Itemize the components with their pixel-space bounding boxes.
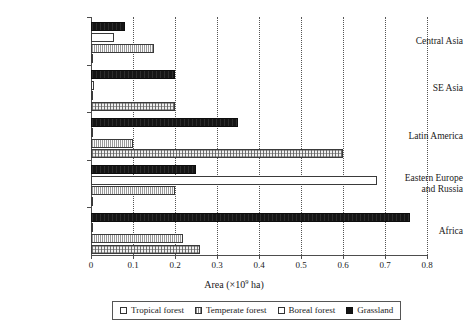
bar-temperate bbox=[91, 139, 133, 148]
y-category-label: Latin America bbox=[382, 131, 468, 142]
bar-grassland bbox=[91, 165, 196, 174]
bar-grassland bbox=[91, 213, 410, 222]
x-tick-label: 0.5 bbox=[286, 260, 316, 271]
y-tick bbox=[87, 207, 92, 208]
bar-temperate bbox=[91, 91, 93, 100]
x-axis-title-suffix: ha) bbox=[248, 279, 263, 290]
legend-label: Temperate forest bbox=[206, 305, 267, 316]
y-category-label: Eastern Europe and Russia bbox=[382, 173, 468, 195]
x-axis-title-prefix: Area (×10 bbox=[204, 279, 245, 290]
legend-swatch-temperate-forest-icon bbox=[195, 307, 202, 314]
legend-label: Tropical forest bbox=[131, 305, 184, 316]
x-tick bbox=[301, 255, 302, 259]
bar-grassland bbox=[91, 118, 238, 127]
legend-swatch-grassland-icon bbox=[346, 307, 353, 314]
x-tick bbox=[343, 255, 344, 259]
legend-swatch-boreal-forest-icon bbox=[278, 307, 285, 314]
y-tick bbox=[87, 160, 92, 161]
y-category-label: Central Asia bbox=[382, 35, 468, 46]
chart-legend: Tropical forestTemperate forestBoreal fo… bbox=[112, 301, 401, 320]
bar-tropical bbox=[91, 102, 175, 111]
x-tick bbox=[427, 255, 428, 259]
y-tick bbox=[87, 112, 92, 113]
bar-tropical bbox=[91, 245, 200, 254]
legend-item[interactable]: Grassland bbox=[346, 305, 393, 316]
bar-temperate bbox=[91, 186, 175, 195]
bar-grassland bbox=[91, 70, 175, 79]
x-tick bbox=[175, 255, 176, 259]
legend-label: Boreal forest bbox=[289, 305, 336, 316]
bar-boreal bbox=[91, 128, 93, 137]
y-category-label: Africa bbox=[382, 226, 468, 237]
x-tick-label: 0.4 bbox=[244, 260, 274, 271]
bar-boreal bbox=[91, 33, 114, 42]
x-axis-title: Area (×109 ha) bbox=[0, 276, 468, 291]
bar-grassland bbox=[91, 22, 125, 31]
x-tick bbox=[217, 255, 218, 259]
legend-label: Grassland bbox=[357, 305, 393, 316]
y-category-label: SE Asia bbox=[382, 83, 468, 94]
bar-chart: 00.10.20.30.40.50.60.70.8 Central AsiaSE… bbox=[0, 0, 468, 329]
x-tick bbox=[385, 255, 386, 259]
x-tick-label: 0.3 bbox=[202, 260, 232, 271]
x-tick-label: 0.7 bbox=[370, 260, 400, 271]
bar-temperate bbox=[91, 44, 154, 53]
bar-tropical bbox=[91, 149, 343, 158]
y-tick bbox=[87, 17, 92, 18]
legend-item[interactable]: Boreal forest bbox=[278, 305, 336, 316]
x-tick bbox=[91, 255, 92, 259]
bar-boreal bbox=[91, 81, 94, 90]
bar-boreal bbox=[91, 176, 377, 185]
x-tick-label: 0.2 bbox=[160, 260, 190, 271]
legend-item[interactable]: Temperate forest bbox=[195, 305, 267, 316]
legend-item[interactable]: Tropical forest bbox=[120, 305, 184, 316]
legend-swatch-tropical-forest-icon bbox=[120, 307, 127, 314]
bar-temperate bbox=[91, 234, 183, 243]
x-tick bbox=[133, 255, 134, 259]
x-tick-label: 0.8 bbox=[412, 260, 442, 271]
y-tick bbox=[87, 65, 92, 66]
x-tick-label: 0.6 bbox=[328, 260, 358, 271]
bar-boreal bbox=[91, 223, 93, 232]
bar-tropical bbox=[91, 197, 93, 206]
x-tick bbox=[259, 255, 260, 259]
bar-tropical bbox=[91, 54, 93, 63]
x-tick-label: 0 bbox=[76, 260, 106, 271]
x-tick-label: 0.1 bbox=[118, 260, 148, 271]
